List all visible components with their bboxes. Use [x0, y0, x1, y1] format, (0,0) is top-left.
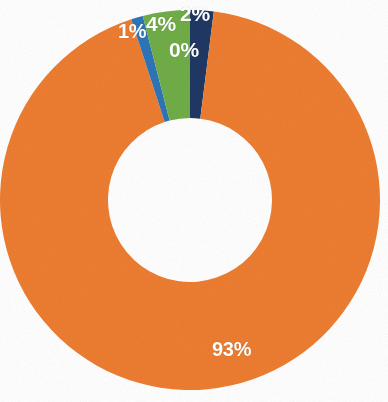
- slice-group: [0, 10, 380, 390]
- data-label-93: 93%: [212, 338, 251, 361]
- data-label-0: 0%: [169, 38, 199, 62]
- data-label-4: 4%: [146, 12, 176, 36]
- data-label-1: 1%: [118, 20, 146, 43]
- donut-chart: 93% 1% 4% 2% 0%: [0, 0, 388, 402]
- data-label-2: 2%: [180, 2, 210, 26]
